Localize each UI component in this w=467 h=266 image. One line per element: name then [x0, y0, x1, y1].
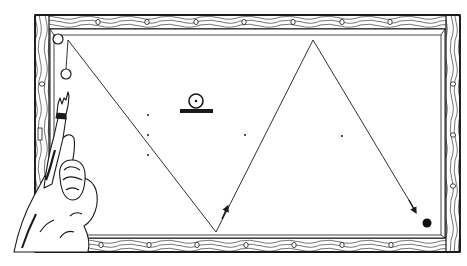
diagram-canvas: [0, 0, 467, 266]
playing-surface: [50, 29, 445, 238]
rail-marker: [38, 128, 42, 140]
corner-ball: [53, 34, 63, 44]
billiards-diagram: Billiard table shot diagram: a player po…: [0, 0, 467, 266]
cue-ball: [61, 69, 71, 79]
object-ball-black: [423, 219, 432, 228]
table-cushion: [50, 29, 445, 238]
